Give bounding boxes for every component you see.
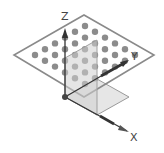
grid-dot bbox=[42, 58, 48, 64]
grid-dot bbox=[102, 46, 108, 52]
grid-dot bbox=[102, 34, 108, 40]
grid-dot bbox=[52, 40, 58, 46]
grid-dot bbox=[102, 58, 108, 64]
grid-dot bbox=[42, 46, 48, 52]
grid-dot bbox=[52, 52, 58, 58]
grid-dot bbox=[52, 63, 58, 69]
xz-plane-patch bbox=[65, 40, 97, 115]
grid-dot bbox=[112, 52, 118, 58]
z-axis-label: Z bbox=[61, 10, 69, 23]
grid-dot bbox=[82, 34, 88, 40]
x-arrow-icon bbox=[118, 125, 129, 132]
grid-dot bbox=[112, 40, 118, 46]
grid-dot bbox=[122, 46, 128, 52]
grid-dot bbox=[72, 29, 78, 35]
origin-point bbox=[62, 94, 68, 100]
x-axis-thick bbox=[100, 116, 114, 124]
x-axis-label: X bbox=[130, 131, 138, 144]
z-arrow-icon bbox=[62, 28, 68, 38]
grid-dot bbox=[32, 52, 38, 58]
grid-dot bbox=[92, 29, 98, 35]
y-axis-label: Y bbox=[130, 50, 138, 63]
grid-dot bbox=[82, 23, 88, 29]
grid-dot bbox=[72, 40, 78, 46]
isometric-axes-diagram: Z Y X bbox=[0, 0, 164, 153]
